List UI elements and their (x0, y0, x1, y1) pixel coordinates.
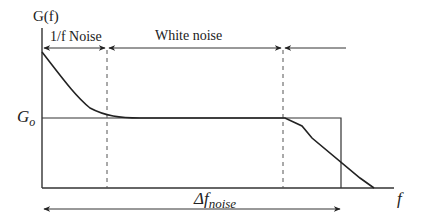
bandwidth-subscript: noise (209, 196, 236, 211)
white-noise-label: White noise (155, 29, 222, 43)
noise-bandwidth-label: Δfnoise (194, 190, 236, 210)
y-axis-label: G(f) (33, 9, 59, 24)
g0-level-label: Go (17, 108, 35, 128)
x-axis-label: f (397, 190, 402, 207)
noise-spectrum-curve (42, 52, 374, 188)
one-over-f-noise-label: 1/f Noise (50, 30, 102, 44)
delta-f-symbol: Δf (194, 189, 209, 208)
g0-symbol: G (17, 107, 29, 126)
g0-subscript: o (29, 115, 35, 129)
equivalent-noise-rectangle (42, 118, 341, 188)
